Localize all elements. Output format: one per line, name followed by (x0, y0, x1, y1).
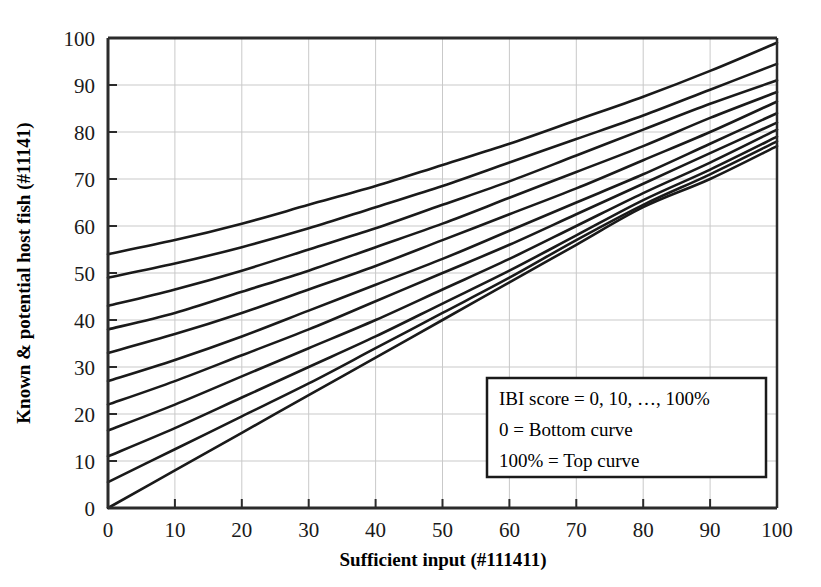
x-tick-label: 70 (566, 518, 587, 542)
x-tick-label: 80 (633, 518, 654, 542)
chart-svg: 0102030405060708090100 01020304050607080… (0, 0, 821, 587)
y-tick-label: 60 (74, 215, 95, 239)
y-tick-label: 70 (74, 168, 95, 192)
x-axis-title: Sufficient input (#111411) (340, 549, 547, 571)
x-tick-label: 90 (700, 518, 721, 542)
y-tick-label: 10 (74, 450, 95, 474)
y-tick-label: 80 (74, 121, 95, 145)
x-tick-label: 20 (231, 518, 252, 542)
y-tick-label: 90 (74, 74, 95, 98)
x-tick-label: 0 (103, 518, 114, 542)
legend-line-3: 100% = Top curve (499, 450, 639, 471)
x-tick-label: 30 (298, 518, 319, 542)
y-tick-label: 100 (64, 27, 96, 51)
y-tick-label: 20 (74, 403, 95, 427)
chart-figure: 0102030405060708090100 01020304050607080… (0, 0, 821, 587)
legend-line-2: 0 = Bottom curve (499, 419, 633, 440)
y-tick-label: 30 (74, 356, 95, 380)
x-tick-label: 60 (499, 518, 520, 542)
y-axis-title: Known & potential host fish (#11141) (13, 122, 35, 423)
legend-box: IBI score = 0, 10, …, 100% 0 = Bottom cu… (487, 378, 766, 477)
y-tick-label: 0 (85, 497, 96, 521)
legend-line-1: IBI score = 0, 10, …, 100% (499, 388, 710, 409)
x-tick-label: 40 (365, 518, 386, 542)
x-tick-label: 50 (432, 518, 453, 542)
x-tick-label: 10 (164, 518, 185, 542)
x-tick-label: 100 (761, 518, 793, 542)
y-tick-label: 50 (74, 262, 95, 286)
y-tick-label: 40 (74, 309, 95, 333)
